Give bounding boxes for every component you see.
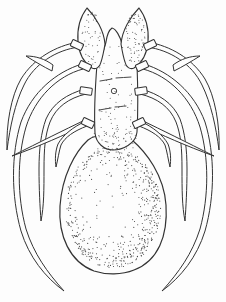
stipple-dot — [142, 223, 143, 224]
stipple-dot — [108, 262, 109, 263]
stipple-dot — [131, 133, 132, 134]
stipple-dot — [143, 254, 144, 255]
stipple-dot — [135, 39, 136, 40]
stipple-dot — [142, 190, 143, 191]
stipple-dot — [109, 172, 110, 173]
stipple-dot — [108, 236, 109, 237]
stipple-dot — [81, 246, 82, 247]
stipple-dot — [80, 239, 81, 240]
stipple-dot — [154, 192, 155, 193]
stipple-dot — [126, 133, 127, 134]
stipple-dot — [157, 194, 158, 195]
stipple-dot — [96, 258, 97, 259]
stipple-dot — [146, 219, 147, 220]
stipple-dot — [118, 246, 119, 247]
stipple-dot — [143, 246, 144, 247]
stipple-dot — [95, 14, 96, 15]
stipple-dot — [149, 182, 150, 183]
stipple-dot — [152, 206, 153, 207]
stipple-dot — [127, 37, 128, 38]
stipple-dot — [113, 260, 114, 261]
stipple-dot — [132, 219, 133, 220]
stipple-dot — [131, 234, 132, 235]
stipple-dot — [144, 32, 145, 33]
stipple-dot — [146, 191, 147, 192]
stipple-dot — [137, 224, 138, 225]
stipple-dot — [142, 199, 143, 200]
stipple-dot — [157, 218, 158, 219]
stipple-dot — [97, 150, 98, 151]
stipple-dot — [92, 45, 93, 46]
stipple-dot — [141, 239, 142, 240]
stipple-dot — [152, 217, 153, 218]
stipple-dot — [121, 265, 122, 266]
stipple-dot — [140, 60, 141, 61]
stipple-dot — [133, 237, 134, 238]
stipple-dot — [133, 175, 134, 176]
stipple-dot — [151, 240, 152, 241]
stipple-dot — [131, 94, 132, 95]
stipple-dot — [130, 117, 131, 118]
stipple-dot — [106, 112, 107, 113]
stipple-dot — [93, 20, 94, 21]
stipple-dot — [144, 220, 145, 221]
stipple-dot — [97, 148, 98, 149]
stipple-dot — [96, 15, 97, 16]
stipple-dot — [149, 233, 150, 234]
stipple-dot — [79, 233, 80, 234]
stipple-dot — [134, 18, 135, 19]
stipple-dot — [70, 195, 71, 196]
stipple-dot — [127, 154, 128, 155]
stipple-dot — [99, 237, 100, 238]
stipple-dot — [104, 264, 105, 265]
stipple-dot — [94, 152, 95, 153]
stipple-dot — [69, 205, 70, 206]
stipple-dot — [113, 143, 114, 144]
stipple-dot — [104, 135, 105, 136]
stipple-dot — [97, 238, 98, 239]
stipple-dot — [138, 234, 139, 235]
stipple-dot — [91, 155, 92, 156]
stipple-dot — [133, 147, 134, 148]
stipple-dot — [124, 149, 125, 150]
stipple-dot — [94, 18, 95, 19]
stipple-dot — [66, 221, 67, 222]
trunk-pore — [111, 88, 116, 93]
stipple-dot — [66, 208, 67, 209]
stipple-dot — [71, 182, 72, 183]
stipple-dot — [109, 107, 110, 108]
stipple-dot — [118, 137, 119, 138]
stipple-dot — [87, 63, 88, 64]
stipple-dot — [96, 168, 97, 169]
stipple-dot — [117, 125, 118, 126]
stipple-dot — [76, 243, 77, 244]
stipple-dot — [134, 110, 135, 111]
stipple-dot — [110, 149, 111, 150]
stipple-dot — [130, 244, 131, 245]
stipple-dot — [120, 186, 121, 187]
stipple-dot — [74, 175, 75, 176]
stipple-dot — [88, 156, 89, 157]
stipple-dot — [78, 227, 79, 228]
stipple-dot — [109, 84, 110, 85]
stipple-dot — [154, 205, 155, 206]
stipple-dot — [116, 165, 117, 166]
stipple-dot — [68, 186, 69, 187]
stipple-dot — [131, 61, 132, 62]
stipple-dot — [131, 57, 132, 58]
stipple-dot — [89, 256, 90, 257]
stipple-dot — [78, 248, 79, 249]
ear-left — [78, 8, 105, 69]
stipple-dot — [144, 248, 145, 249]
stipple-dot — [120, 188, 121, 189]
stipple-dot — [124, 105, 125, 106]
stipple-dot — [127, 33, 128, 34]
stipple-dot — [125, 65, 126, 66]
stipple-dot — [99, 36, 100, 37]
stipple-dot — [92, 63, 93, 64]
stipple-dot — [127, 40, 128, 41]
stipple-dot — [150, 223, 151, 224]
stipple-dot — [127, 155, 128, 156]
stipple-dot — [142, 166, 143, 167]
stipple-dot — [137, 57, 138, 58]
